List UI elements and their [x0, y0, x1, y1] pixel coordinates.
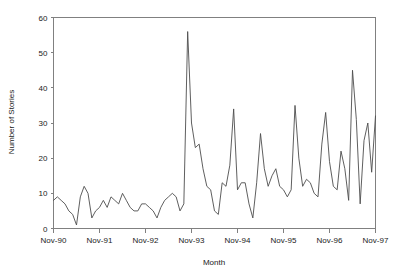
- x-axis-tick-labels: Nov-90Nov-91Nov-92Nov-93Nov-94Nov-95Nov-…: [41, 236, 389, 245]
- data-series-group: [54, 32, 376, 225]
- y-tick-label: 20: [39, 154, 48, 163]
- y-tick-label: 50: [39, 49, 48, 58]
- x-tick-label: Nov-90: [41, 236, 67, 245]
- chart-container: 0102030405060 Nov-90Nov-91Nov-92Nov-93No…: [0, 0, 398, 272]
- series-line-number-of-stories: [54, 32, 376, 225]
- y-tick-label: 40: [39, 84, 48, 93]
- x-tick-label: Nov-91: [87, 236, 113, 245]
- x-tick-label: Nov-97: [363, 236, 389, 245]
- plot-frame: [54, 18, 376, 229]
- y-axis-title: Number of Stories: [7, 90, 16, 154]
- y-axis-tick-labels: 0102030405060: [39, 14, 48, 234]
- y-tick-label: 30: [39, 119, 48, 128]
- x-axis-title: Month: [203, 258, 225, 267]
- y-tick-label: 60: [39, 14, 48, 23]
- x-tick-label: Nov-92: [133, 236, 159, 245]
- axis-frame: [54, 18, 376, 229]
- y-tick-label: 10: [39, 189, 48, 198]
- x-tick-label: Nov-95: [271, 236, 297, 245]
- y-tick-label: 0: [43, 225, 48, 234]
- x-axis-ticks: [54, 229, 376, 233]
- line-chart: 0102030405060 Nov-90Nov-91Nov-92Nov-93No…: [0, 0, 398, 272]
- x-tick-label: Nov-94: [225, 236, 251, 245]
- x-tick-label: Nov-96: [317, 236, 343, 245]
- x-tick-label: Nov-93: [179, 236, 205, 245]
